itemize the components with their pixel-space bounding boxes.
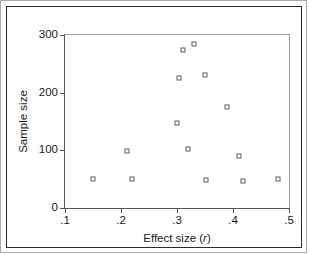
y-axis-tick-label: 300 xyxy=(39,29,58,41)
scatter-plot-figure: 0100200300.1.2.3.4.5 Sample size Effect … xyxy=(0,0,309,255)
data-point xyxy=(275,176,280,181)
x-axis-tick xyxy=(65,208,66,213)
y-axis-tick-label: 100 xyxy=(39,145,58,157)
x-axis-tick xyxy=(177,208,178,213)
x-axis-title-text: Effect size xyxy=(143,232,196,244)
x-axis-tick-label: .5 xyxy=(284,215,294,227)
x-axis-tick-label: .3 xyxy=(172,215,182,227)
x-axis-tick-label: .4 xyxy=(228,215,238,227)
data-point xyxy=(225,105,230,110)
data-point xyxy=(191,41,196,46)
data-point xyxy=(236,154,241,159)
x-axis-title-paren-close: ) xyxy=(207,232,211,244)
data-point xyxy=(186,146,191,151)
y-axis-tick xyxy=(60,35,65,36)
x-axis-tick xyxy=(121,208,122,213)
x-axis-tick-label: .1 xyxy=(60,215,70,227)
y-axis-tick-label: 200 xyxy=(39,87,58,99)
data-point xyxy=(91,177,96,182)
y-axis-tick-label: 0 xyxy=(52,202,58,214)
x-axis-tick xyxy=(233,208,234,213)
data-point xyxy=(124,149,129,154)
figure-frame: 0100200300.1.2.3.4.5 Sample size Effect … xyxy=(6,6,302,248)
x-axis-tick-label: .2 xyxy=(116,215,126,227)
data-point xyxy=(241,178,246,183)
x-axis-tick xyxy=(289,208,290,213)
data-point xyxy=(130,176,135,181)
data-point xyxy=(203,73,208,78)
plot-area: 0100200300.1.2.3.4.5 xyxy=(64,34,290,209)
y-axis-tick xyxy=(60,93,65,94)
data-point xyxy=(175,121,180,126)
y-axis-title: Sample size xyxy=(17,34,31,209)
data-point xyxy=(176,76,181,81)
x-axis-title: Effect size (r) xyxy=(64,232,290,244)
y-axis-tick xyxy=(60,150,65,151)
data-point xyxy=(203,177,208,182)
data-point xyxy=(181,47,186,52)
